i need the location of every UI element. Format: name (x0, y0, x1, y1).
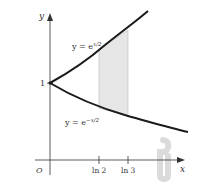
x-tick-label-ln3: ln 3 (121, 166, 136, 175)
y-axis-label: y (38, 11, 45, 21)
x-tick-label-ln2: ln 2 (92, 166, 107, 175)
upper-curve-equation: y = ex/2 (71, 41, 102, 51)
lower-curve-equation-base: y = e (64, 118, 86, 127)
intercept-point (48, 81, 51, 84)
upper-curve-equation-exponent: x/2 (93, 41, 102, 47)
rotate-arrow-icon (160, 140, 168, 179)
y-axis-arrow-icon (47, 13, 53, 21)
y-tick-label-1: 1 (40, 79, 45, 88)
graph-figure: y x O 1 ln 2 ln 3 y = ex/2 y = e−x/2 (0, 0, 198, 190)
x-axis-arrow-icon (177, 157, 185, 163)
upper-curve-equation-base: y = e (71, 42, 93, 51)
lower-curve-equation: y = e−x/2 (64, 117, 100, 127)
x-axis-label: x (180, 164, 185, 174)
origin-label: O (36, 166, 43, 175)
lower-curve-equation-exponent: −x/2 (86, 117, 100, 123)
shaded-region (99, 30, 128, 116)
